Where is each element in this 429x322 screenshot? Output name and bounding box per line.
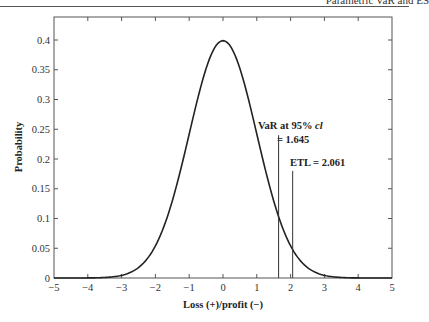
- x-tick-label: 5: [389, 282, 394, 293]
- y-tick-label: 0.2: [37, 154, 50, 165]
- etl-label: ETL = 2.061: [290, 157, 345, 168]
- x-tick-label: −3: [116, 282, 127, 293]
- y-tick-label: 0.1: [37, 213, 50, 224]
- x-tick-label: −5: [48, 282, 59, 293]
- var-label: VaR at 95% cl: [258, 120, 323, 131]
- y-tick-label: 0.15: [32, 183, 50, 194]
- x-axis-title: Loss (+)/profit (−): [183, 299, 264, 311]
- x-tick-label: −2: [150, 282, 161, 293]
- x-tick-label: 1: [254, 282, 259, 293]
- x-tick-label: −1: [184, 282, 195, 293]
- y-tick-label: 0.3: [37, 94, 50, 105]
- x-tick-label: 0: [220, 282, 225, 293]
- x-axis-ticks: −5−4−3−2−1012345: [48, 17, 394, 293]
- y-tick-label: 0.4: [37, 35, 51, 46]
- y-tick-label: 0.05: [32, 243, 50, 254]
- x-tick-label: 2: [288, 282, 293, 293]
- x-tick-label: −4: [82, 282, 94, 293]
- plot-frame: [54, 17, 392, 278]
- y-axis-title: Probability: [13, 121, 24, 172]
- y-tick-label: 0.25: [32, 124, 50, 135]
- x-tick-label: 3: [322, 282, 327, 293]
- y-tick-label: 0: [45, 273, 50, 284]
- y-tick-label: 0.35: [32, 64, 50, 75]
- var-value-label: = 1.645: [277, 134, 309, 145]
- x-tick-label: 4: [356, 282, 362, 293]
